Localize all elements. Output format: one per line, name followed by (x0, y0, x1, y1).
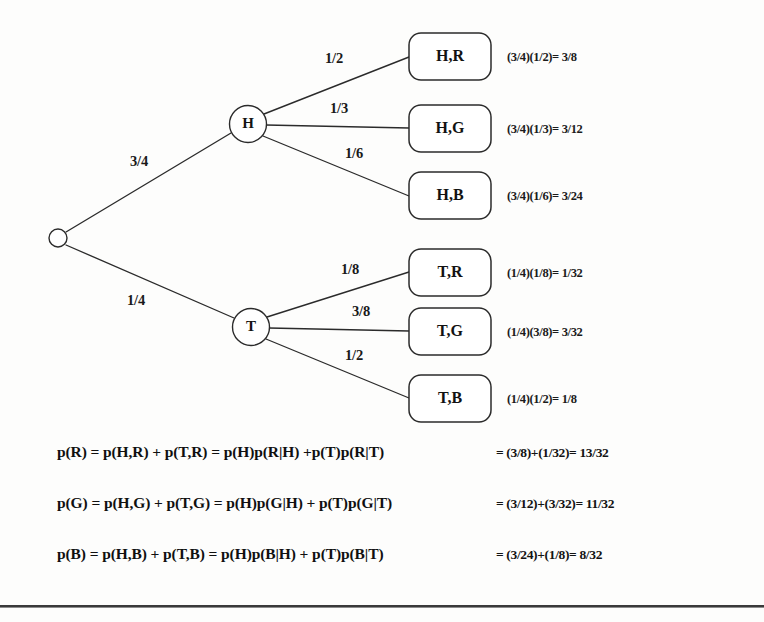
tree-graphics (0, 0, 764, 450)
node-label-T: T (237, 319, 265, 334)
edge-root-to-T (66, 245, 234, 318)
joint-calc-TG: (1/4)(3/8)= 3/32 (507, 325, 582, 340)
edge-prob-T-TB: 1/2 (345, 347, 363, 364)
equation-result-G: = (3/12)+(3/32)= 11/32 (496, 496, 614, 512)
edge-prob-H-HG: 1/3 (330, 100, 348, 117)
equation-row-R: p(R) = p(H,R) + p(T,R) = p(H)p(R|H) +p(T… (0, 443, 764, 494)
leaf-label-TB: T,B (409, 389, 491, 407)
equation-expression-R: p(R) = p(H,R) + p(T,R) = p(H)p(R|H) +p(T… (57, 443, 384, 461)
edge-H-to-HG (266, 125, 409, 128)
equation-row-B: p(B) = p(H,B) + p(T,B) = p(H)p(B|H) + p(… (0, 545, 764, 596)
node-label-H: H (234, 116, 262, 131)
equation-row-G: p(G) = p(H,G) + p(T,G) = p(H)p(G|H) + p(… (0, 494, 764, 545)
leaf-label-HG: H,G (409, 119, 491, 137)
edge-prob-T-TR: 1/8 (341, 261, 359, 278)
leaf-label-HB: H,B (409, 186, 491, 204)
edge-T-to-TB (266, 339, 409, 398)
edge-prob-T-TG: 3/8 (352, 303, 370, 320)
probability-tree-figure: H T 3/4 1/4 1/2 1/3 1/6 1/8 3/8 1/2 H,R … (0, 0, 764, 622)
edge-T-to-TR (267, 272, 409, 317)
equation-result-B: = (3/24)+(1/8)= 8/32 (496, 547, 602, 563)
joint-calc-HR: (3/4)(1/2)= 3/8 (507, 50, 577, 65)
joint-calc-TR: (1/4)(1/8)= 1/32 (507, 266, 582, 281)
joint-calc-HB: (3/4)(1/6)= 3/24 (507, 189, 582, 204)
equation-expression-B: p(B) = p(H,B) + p(T,B) = p(H)p(B|H) + p(… (57, 545, 383, 563)
edge-root-to-H (66, 133, 231, 232)
equation-result-R: = (3/8)+(1/32)= 13/32 (496, 445, 608, 461)
bottom-divider-shadow (0, 607, 764, 608)
equations-block: p(R) = p(H,R) + p(T,R) = p(H)p(R|H) +p(T… (0, 443, 764, 596)
root-node (49, 229, 67, 247)
leaf-label-HR: H,R (409, 47, 491, 65)
edge-prob-H-HR: 1/2 (325, 50, 343, 67)
edge-prob-H-HB: 1/6 (345, 145, 363, 162)
edge-prob-root-H: 3/4 (130, 153, 148, 170)
edge-prob-root-T: 1/4 (127, 292, 145, 309)
joint-calc-TB: (1/4)(1/2)= 1/8 (507, 392, 577, 407)
leaf-label-TR: T,R (409, 263, 491, 281)
joint-calc-HG: (3/4)(1/3)= 3/12 (507, 122, 582, 137)
edge-H-to-HB (263, 136, 409, 196)
equation-expression-G: p(G) = p(H,G) + p(T,G) = p(H)p(G|H) + p(… (57, 494, 392, 512)
leaf-label-TG: T,G (409, 322, 491, 340)
edge-T-to-TG (269, 328, 409, 331)
